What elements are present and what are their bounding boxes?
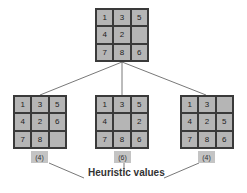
heuristic-badge-right: (4) [198,151,215,163]
tile: 4 [96,113,113,130]
heuristic-badge-left: (4) [31,151,48,163]
tile: 8 [113,44,130,61]
tile: 1 [181,96,198,113]
tile: 1 [96,9,113,26]
tile: 4 [96,26,113,43]
child-puzzle-grid-middle: 1 3 5 4 2 7 8 6 [95,95,149,149]
child-puzzle-grid-left: 1 3 5 4 2 6 7 8 [13,95,67,149]
tile: 3 [31,96,48,113]
root-puzzle-grid: 1 3 5 4 2 7 8 6 [95,8,149,62]
tile: 1 [96,96,113,113]
tile: 2 [31,113,48,130]
tile: 2 [198,113,215,130]
tile: 6 [49,113,66,130]
child-puzzle-grid-right: 1 3 4 2 5 7 8 6 [180,95,234,149]
tile: 4 [181,113,198,130]
tile: 1 [14,96,31,113]
tile: 3 [198,96,215,113]
tile: 5 [49,96,66,113]
tile: 2 [113,26,130,43]
tile: 6 [131,131,148,148]
tile-blank [49,131,66,148]
tile: 7 [96,44,113,61]
tile: 2 [131,113,148,130]
tile: 3 [113,96,130,113]
heuristic-badge-middle: (6) [114,151,131,163]
tile: 5 [216,113,233,130]
heuristic-values-caption: Heuristic values [88,167,165,178]
tile: 7 [96,131,113,148]
tile-blank [113,113,130,130]
tile-blank [131,26,148,43]
tile: 8 [198,131,215,148]
tile: 4 [14,113,31,130]
tile: 6 [216,131,233,148]
tile-blank [216,96,233,113]
tile: 7 [181,131,198,148]
tile: 6 [131,44,148,61]
tile: 5 [131,96,148,113]
tile: 8 [31,131,48,148]
tile: 3 [113,9,130,26]
tile: 5 [131,9,148,26]
tile: 7 [14,131,31,148]
tile: 8 [113,131,130,148]
